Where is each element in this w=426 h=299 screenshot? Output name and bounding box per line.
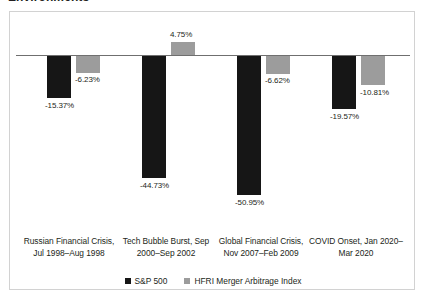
legend-item-sp500[interactable]: S&P 500	[125, 276, 168, 286]
category-label-2-line-1: Nov 2007–Feb 2009	[208, 248, 314, 260]
category-label-3-line-1: Mar 2020	[303, 248, 409, 260]
square-marker-icon	[184, 278, 190, 284]
category-label-1: Tech Bubble Burst, Sep 2000–Sep 2002	[113, 236, 219, 259]
bar-hfri-3[interactable]	[361, 56, 385, 85]
bar-sp500-1[interactable]	[142, 56, 166, 178]
bar-sp500-0[interactable]	[47, 56, 71, 98]
legend-label-hfri: HFRI Merger Arbitrage Index	[194, 276, 301, 286]
category-label-2: Global Financial Crisis, Nov 2007–Feb 20…	[208, 236, 314, 259]
chart-legend: S&P 500 HFRI Merger Arbitrage Index	[10, 273, 416, 289]
bar-label-hfri-1: 4.75%	[170, 30, 192, 39]
page-title: Environments	[8, 0, 89, 4]
legend-item-hfri[interactable]: HFRI Merger Arbitrage Index	[184, 276, 301, 286]
bar-label-sp500-2: -50.95%	[235, 198, 264, 207]
plot-area: -15.37% -6.23% -44.73% 4.75% -50.95% -6.…	[10, 12, 416, 234]
legend-label-sp500: S&P 500	[135, 276, 168, 286]
category-label-0-line-1: Jul 1998–Aug 1998	[16, 248, 122, 260]
bar-hfri-2[interactable]	[266, 56, 290, 74]
category-label-1-line-1: 2000–Sep 2002	[113, 248, 219, 260]
category-label-0: Russian Financial Crisis, Jul 1998–Aug 1…	[16, 236, 122, 259]
bar-label-hfri-2: -6.62%	[265, 76, 290, 85]
bar-label-sp500-1: -44.73%	[140, 181, 169, 190]
bar-label-sp500-3: -19.57%	[330, 112, 359, 121]
bar-hfri-0[interactable]	[76, 56, 100, 73]
category-label-1-line-0: Tech Bubble Burst, Sep	[113, 236, 219, 248]
bar-label-sp500-0: -15.37%	[45, 101, 74, 110]
square-marker-icon	[125, 278, 131, 284]
bar-label-hfri-3: -10.81%	[360, 88, 389, 97]
category-label-0-line-0: Russian Financial Crisis,	[16, 236, 122, 248]
bar-label-hfri-0: -6.23%	[75, 75, 100, 84]
bar-hfri-1[interactable]	[171, 42, 195, 55]
chart-panel: -15.37% -6.23% -44.73% 4.75% -50.95% -6.…	[9, 11, 415, 290]
bar-sp500-2[interactable]	[237, 56, 261, 195]
bar-sp500-3[interactable]	[332, 56, 356, 109]
category-label-3: COVID Onset, Jan 2020– Mar 2020	[303, 236, 409, 259]
category-label-3-line-0: COVID Onset, Jan 2020–	[303, 236, 409, 248]
category-axis: Russian Financial Crisis, Jul 1998–Aug 1…	[10, 236, 416, 270]
category-label-2-line-0: Global Financial Crisis,	[208, 236, 314, 248]
